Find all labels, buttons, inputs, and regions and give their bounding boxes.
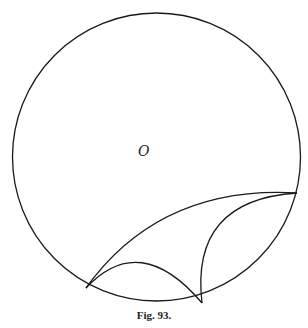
figure-caption: Fig. 93. [0,309,308,321]
arc-A-B [86,262,202,303]
arc-A-C [86,192,297,288]
arc-B-C [201,193,297,303]
boundary-circle [13,13,301,301]
hyperbolic-triangle-diagram [0,0,308,328]
center-label: O [138,143,149,159]
